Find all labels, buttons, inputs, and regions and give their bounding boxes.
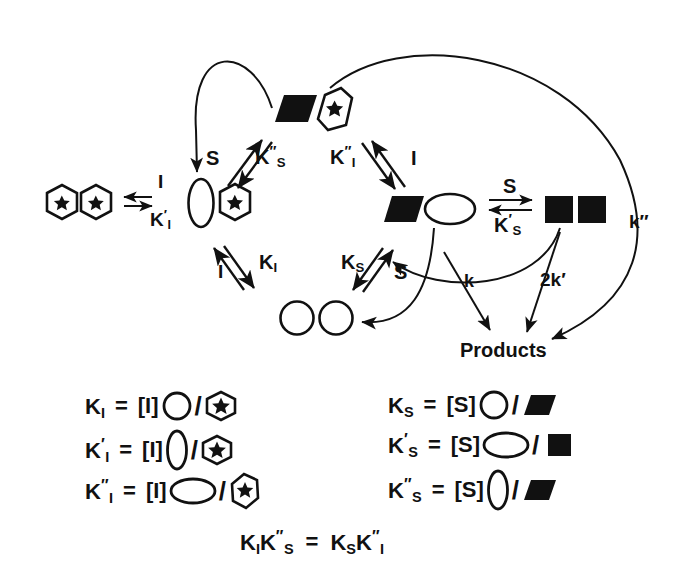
equilibrium-upper-left-S-label: S <box>206 148 219 168</box>
equals-sign: = <box>414 392 447 418</box>
ellipse-tall-glyph <box>485 468 511 512</box>
equilibrium-upper-left-Ks-label: K″S <box>255 144 286 169</box>
ellipse-wide-glyph <box>481 429 531 461</box>
circle-glyph <box>477 388 511 422</box>
Ki-double-prime-definition: K″I = [I] / <box>85 470 263 512</box>
Ks-double-prime-definition-lhs: K″S <box>388 476 422 505</box>
Ki-definition: KI = [I] / <box>85 388 239 424</box>
Ki-prime-definition-lhs: K′I <box>85 436 109 465</box>
Ki-prime-definition-slash: / <box>191 435 198 466</box>
doubly-liganded-complex <box>545 196 606 223</box>
rate-k-double-prime-label: k″ <box>629 212 649 231</box>
Ks-prime-definition: K′S = [S] / <box>388 429 577 461</box>
Ki-double-prime-definition-slash: / <box>219 476 226 507</box>
equals-sign: = <box>105 393 138 419</box>
Ks-definition-lhs: KS <box>388 391 414 420</box>
thermodynamic-box-identity: KIK″S = KSK″I <box>240 528 384 557</box>
Ki-double-prime-definition-bracket: [I] <box>146 478 167 504</box>
Ki-definition-bracket: [I] <box>138 393 159 419</box>
equals-sign: = <box>422 477 455 503</box>
free-enzyme-dimer <box>47 185 111 219</box>
identity-lhs: KIK″S <box>240 528 294 557</box>
equilibrium-lower-left-Ki-label: KI <box>259 252 277 274</box>
equilibrium-middle-right-Ks-label: K′S <box>494 212 521 237</box>
hexagon-star-tall-glyph <box>227 470 263 512</box>
Ks-prime-definition-bracket: [S] <box>451 432 480 458</box>
equilibrium-lower-left-I-label: I <box>218 262 223 281</box>
equals-sign: = <box>109 437 142 463</box>
rate-k-label: k <box>464 272 474 290</box>
Ks-double-prime-definition-bracket: [S] <box>455 477 484 503</box>
Ks-definition-slash: / <box>512 390 519 421</box>
enzyme-substrate-complex <box>384 194 475 224</box>
Ki-definition-lhs: KI <box>85 392 105 421</box>
Ki-prime-equilibrium-arrows <box>124 197 152 206</box>
equilibrium-upper-right-Ki-label: K″I <box>330 144 356 169</box>
equals-sign: = <box>418 432 451 458</box>
square-black-glyph <box>543 430 577 460</box>
circle-glyph <box>160 389 194 423</box>
Ks-prime-definition-slash: / <box>532 430 539 461</box>
rate-2k-prime-label: 2k′ <box>540 270 566 289</box>
Ki-double-prime-definition-lhs: K″I <box>85 477 113 506</box>
arc-recycle-to-enzyme-substrate <box>393 228 560 283</box>
ellipse-tall-glyph <box>164 428 190 472</box>
Ks-double-prime-definition: K″S = [S] / <box>388 468 558 512</box>
diagram-canvas: I K′I S K″S K″I I I KI KS S S K′S k 2k′ … <box>0 0 675 576</box>
arrow-k-to-products <box>444 252 490 330</box>
parallelogram-black-glyph <box>520 475 558 505</box>
ellipse-wide-glyph <box>168 475 218 507</box>
identity-rhs: KSK″I <box>330 528 384 557</box>
Ks-definition: KS = [S] / <box>388 388 558 422</box>
equilibrium-left-top-label: I <box>158 172 163 191</box>
Ks-double-prime-definition-slash: / <box>512 475 519 506</box>
equilibrium-upper-right-I-label: I <box>411 148 417 168</box>
Ks-prime-equilibrium-arrows <box>489 200 532 210</box>
equals-sign: = <box>113 478 146 504</box>
equilibrium-middle-right-S-label: S <box>503 176 516 196</box>
equals-sign: = <box>294 529 331 555</box>
equilibrium-left-bottom-label: K′I <box>150 208 171 232</box>
equilibrium-lower-right-Ks-label: KS <box>341 252 364 274</box>
Ki-prime-definition: K′I = [I] / <box>85 428 235 472</box>
Ki-double-prime-equilibrium-arrows <box>362 141 405 189</box>
Ks-definition-bracket: [S] <box>446 392 475 418</box>
parallelogram-black-glyph <box>520 390 558 420</box>
substrate-inhibitor-complex <box>275 88 352 130</box>
Ki-prime-definition-bracket: [I] <box>142 437 163 463</box>
equilibrium-lower-right-S-label: S <box>394 262 407 282</box>
hexagon-star-glyph <box>203 388 239 424</box>
Ki-definition-slash: / <box>195 391 202 422</box>
products-label: Products <box>460 340 547 360</box>
hexagon-star-glyph <box>199 432 235 468</box>
relaxed-dimer <box>281 302 353 335</box>
Ks-prime-definition-lhs: K′S <box>388 431 418 460</box>
